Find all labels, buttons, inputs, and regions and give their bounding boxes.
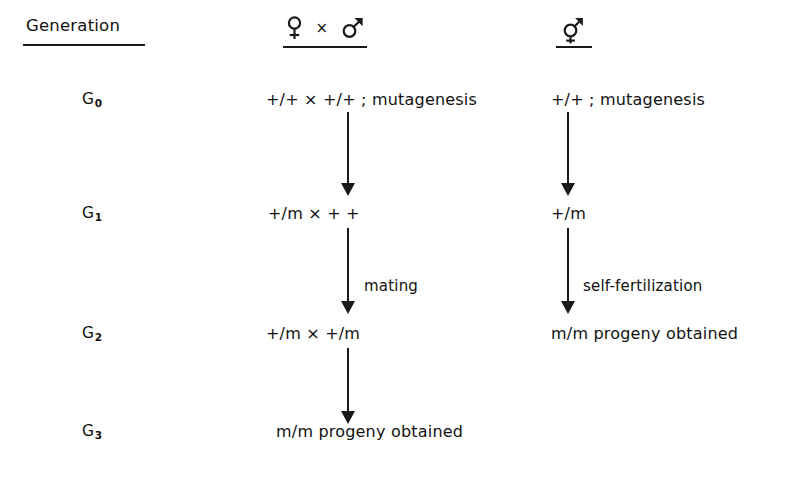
self-arrow-g1-to-g2 — [559, 228, 577, 314]
hermaphrodite-symbol — [561, 15, 587, 48]
arrow-shaft — [347, 112, 349, 183]
generation-label-g1-subscript: 1 — [95, 211, 103, 223]
arrow-head — [561, 301, 575, 314]
generation-column-header: Generation — [26, 18, 120, 35]
self-fertilization-arrow-label: self-fertilization — [583, 279, 703, 294]
generation-label-g3-subscript: 3 — [95, 429, 103, 441]
arrow-shaft — [347, 348, 349, 411]
self-column-header — [561, 15, 587, 48]
cross-genotype-g1: +/m × + + — [268, 206, 360, 222]
male-symbol — [341, 15, 365, 44]
generation-label-g3-letter: G — [82, 422, 94, 440]
generation-label-g2-letter: G — [82, 324, 94, 342]
cross-header-rule — [283, 46, 367, 50]
cross-arrow-g1-to-g2 — [339, 228, 357, 314]
self-genotype-g1: +/m — [551, 206, 586, 222]
cross-genotype-g3: m/m progeny obtained — [276, 424, 463, 440]
generation-label-g0-subscript: 0 — [95, 97, 103, 109]
cross-arrow-g0-to-g1 — [339, 112, 357, 196]
self-arrow-g0-to-g1 — [559, 112, 577, 196]
generation-label-g0: G0 — [82, 92, 102, 108]
female-symbol — [286, 15, 303, 44]
cross-genotype-g0: +/+ × +/+ ; mutagenesis — [266, 92, 477, 108]
generation-label-g0-letter: G — [82, 90, 94, 108]
generation-label-g3: G3 — [82, 424, 102, 440]
arrow-shaft — [347, 228, 349, 301]
self-genotype-g2: m/m progeny obtained — [551, 326, 738, 342]
generation-label-g2: G2 — [82, 326, 102, 342]
mating-arrow-label: mating — [364, 279, 418, 294]
arrow-head — [561, 183, 575, 196]
arrow-shaft — [567, 112, 569, 183]
cross-column-header: × — [286, 15, 365, 44]
arrow-shaft — [567, 228, 569, 301]
generation-label-g1: G1 — [82, 206, 102, 222]
cross-operator: × — [309, 21, 336, 36]
self-header-rule — [556, 46, 592, 50]
generation-label-g2-subscript: 2 — [95, 331, 103, 343]
generation-label-g1-letter: G — [82, 204, 94, 222]
arrow-head — [341, 411, 355, 424]
arrow-head — [341, 301, 355, 314]
arrow-head — [341, 183, 355, 196]
cross-genotype-g2: +/m × +/m — [266, 326, 360, 342]
crossing-scheme-diagram: Generation × — [0, 0, 799, 488]
generation-header-rule — [23, 44, 145, 48]
self-genotype-g0: +/+ ; mutagenesis — [551, 92, 705, 108]
cross-arrow-g2-to-g3 — [339, 348, 357, 424]
